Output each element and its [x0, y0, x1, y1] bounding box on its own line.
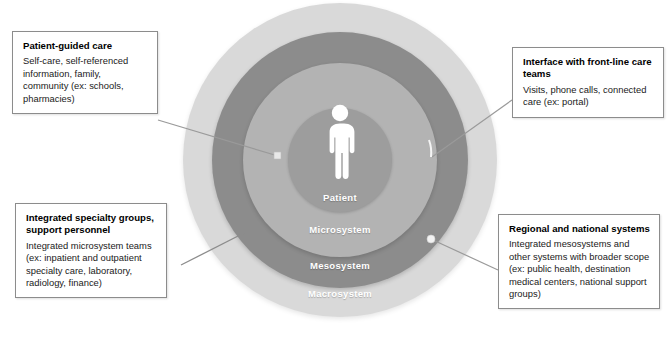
diagram-canvas: Patient Microsystem Mesosystem Macrosyst…: [0, 0, 672, 338]
callout-integrated-specialty-groups[interactable]: Integrated specialty groups, support per…: [15, 203, 167, 298]
callout-body: Self-care, self-referenced information, …: [23, 55, 148, 105]
callout-title: Patient-guided care: [23, 40, 148, 52]
callout-title: Interface with front-line care teams: [523, 56, 654, 81]
person-pictogram-icon: [324, 104, 356, 180]
callout-patient-guided-care[interactable]: Patient-guided care Self-care, self-refe…: [12, 31, 158, 114]
callout-body: Integrated mesosystems and other systems…: [509, 238, 650, 300]
callout-regional-and-national-systems[interactable]: Regional and national systems Integrated…: [498, 214, 660, 309]
callout-body: Visits, phone calls, connected care (ex:…: [523, 84, 654, 109]
callout-interface-front-line-care-teams[interactable]: Interface with front-line care teams Vis…: [512, 47, 664, 118]
callout-body: Integrated microsystem teams (ex: inpati…: [26, 240, 157, 290]
callout-title: Regional and national systems: [509, 223, 650, 235]
callout-title: Integrated specialty groups, support per…: [26, 212, 157, 237]
